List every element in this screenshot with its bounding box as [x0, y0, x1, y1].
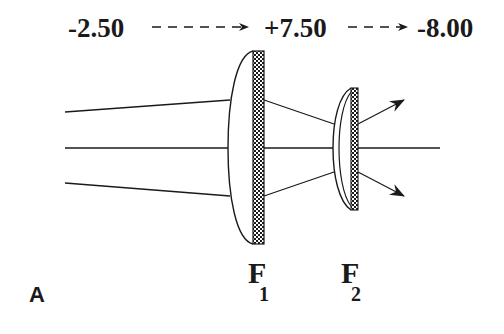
converging-ray-bottom [264, 172, 334, 196]
power-sequence: -2.50 +7.50 -8.00 [68, 13, 473, 43]
lens-f2 [333, 88, 358, 210]
diverging-ray-bottom [358, 172, 404, 196]
optical-diagram: -2.50 +7.50 -8.00 F 1 F 2 A [0, 0, 504, 334]
incoming-ray-top [65, 100, 230, 112]
lens-f2-subscript: 2 [351, 283, 361, 305]
lens-f2-label: F 2 [341, 256, 361, 305]
lens-f1-subscript: 1 [259, 283, 269, 305]
lens-f2-outer-surface [333, 88, 351, 210]
power-start-label: -2.50 [68, 13, 124, 43]
lens-f1-label: F 1 [248, 256, 269, 305]
converging-ray-top [264, 100, 334, 124]
power-middle-label: +7.50 [264, 13, 327, 43]
panel-label: A [29, 282, 45, 307]
diverging-ray-top [358, 100, 404, 124]
lens-f1 [228, 51, 264, 244]
incoming-ray-bottom [65, 183, 230, 196]
power-end-label: -8.00 [417, 13, 473, 43]
lens-f2-plate [351, 88, 358, 210]
lens-f1-convex-surface [228, 51, 253, 244]
lens-f1-plate [253, 51, 264, 244]
